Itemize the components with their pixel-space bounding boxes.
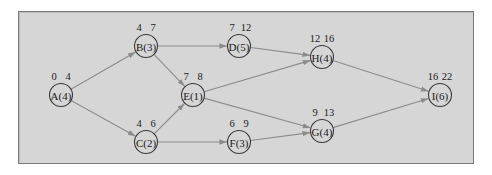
nodes-layer: A(4)04B(3)47C(2)46D(5)712E(1)78F(3)69H(4… <box>50 22 453 154</box>
earliest-finish-label: 8 <box>197 71 202 82</box>
edge-d-h <box>250 48 310 56</box>
edge-a-c <box>71 101 135 137</box>
node-label: A(4) <box>51 90 72 103</box>
edge-c-e <box>154 104 184 134</box>
earliest-start-label: 7 <box>183 71 188 82</box>
node-f: F(3)69 <box>228 118 251 154</box>
earliest-finish-label: 6 <box>150 118 155 129</box>
node-label: H(4) <box>312 52 333 65</box>
earliest-finish-label: 7 <box>150 22 155 33</box>
earliest-start-label: 9 <box>312 107 317 118</box>
node-c: C(2)46 <box>135 118 158 154</box>
node-label: B(3) <box>136 41 157 54</box>
earliest-finish-label: 12 <box>241 22 252 33</box>
node-h: H(4)1216 <box>310 33 335 69</box>
earliest-start-label: 4 <box>136 22 142 33</box>
earliest-finish-label: 16 <box>324 33 335 44</box>
node-e: E(1)78 <box>182 71 205 107</box>
node-i: I(6)1622 <box>428 71 453 107</box>
earliest-finish-label: 4 <box>65 71 71 82</box>
earliest-start-label: 4 <box>136 118 142 129</box>
node-label: I(6) <box>432 90 449 103</box>
node-g: G(4)913 <box>311 107 335 143</box>
earliest-start-label: 0 <box>51 71 56 82</box>
edge-a-b <box>71 52 136 89</box>
earliest-start-label: 6 <box>229 118 234 129</box>
node-label: G(4) <box>312 126 333 139</box>
edge-h-i <box>333 61 429 92</box>
node-label: F(3) <box>230 137 249 150</box>
earliest-start-label: 7 <box>229 22 234 33</box>
edge-f-g <box>250 133 310 141</box>
node-b: B(3)47 <box>135 22 158 58</box>
edge-e-g <box>204 98 310 128</box>
node-label: C(2) <box>136 137 157 150</box>
earliest-start-label: 12 <box>310 33 321 44</box>
node-a: A(4)04 <box>50 71 73 107</box>
edge-e-h <box>204 60 311 91</box>
edges-layer <box>71 46 429 142</box>
edge-b-e <box>154 54 185 86</box>
earliest-finish-label: 22 <box>442 71 453 82</box>
network-diagram: A(4)04B(3)47C(2)46D(5)712E(1)78F(3)69H(4… <box>0 0 492 175</box>
earliest-finish-label: 13 <box>324 107 335 118</box>
edge-g-i <box>333 99 429 128</box>
earliest-finish-label: 9 <box>243 118 248 129</box>
node-d: D(5)712 <box>228 22 252 58</box>
node-label: D(5) <box>229 41 250 54</box>
node-label: E(1) <box>183 90 203 103</box>
earliest-start-label: 16 <box>428 71 439 82</box>
